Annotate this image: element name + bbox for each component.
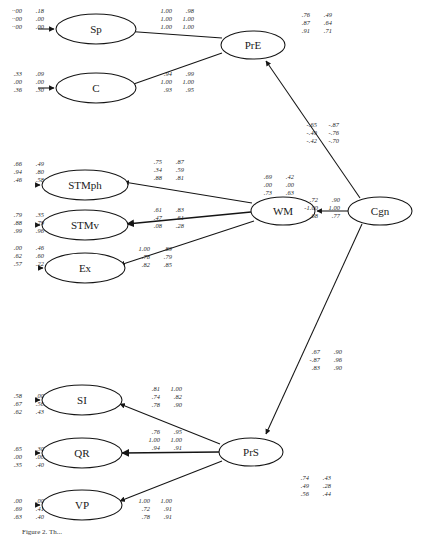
node-stmv[interactable]: STMv (42, 210, 128, 240)
node-pre[interactable]: PrE (221, 31, 285, 59)
node-si[interactable]: SI (42, 385, 122, 415)
node-vp[interactable]: VP (42, 490, 122, 520)
node-cgn[interactable]: Cgn (348, 197, 412, 225)
node-c[interactable]: C (56, 73, 136, 103)
coefficients-stmph-left: .66.49.94.80.46.58 (5, 160, 44, 184)
coefficients-wm-top: .69.42.00.00.73.63 (255, 173, 294, 197)
coefficients-vp-left: .00.00.69.41.63.40 (5, 497, 44, 521)
node-qr[interactable]: QR (42, 438, 122, 468)
node-qr-label: QR (74, 447, 90, 459)
node-c-label: C (92, 82, 99, 94)
coefficients-qr-loading: .76.951.001.00.94.91 (143, 428, 182, 452)
coefficients-ex-loading: 1.00.89.78.79.82.85 (133, 245, 172, 269)
coefficients-cgn-to-wm: .72.90-1.001.00.68.77 (301, 196, 340, 220)
coefficients-prs-right: .74.43.49.28.56.44 (292, 474, 331, 498)
node-wm-label: WM (273, 205, 293, 217)
arrow-prs-to-vp (120, 461, 222, 501)
coefficients-si-left: .58.00.67.56.62.43 (5, 392, 44, 416)
loading-arrows-prs (120, 404, 222, 501)
coefficients-cgn-to-prs: .67.90-.87.96.83.90 (303, 348, 342, 372)
node-prs-label: PrS (243, 446, 259, 458)
node-cgn-label: Cgn (371, 205, 390, 217)
coefficients-ex-left: .00.46.62.60.57.22 (5, 244, 44, 268)
structural-arrows-cgn (266, 61, 362, 434)
coefficients-stmv-loading: .61.83.47.61.08.28 (145, 206, 184, 230)
node-prs[interactable]: PrS (219, 438, 283, 466)
arrow-prs-to-qr (122, 452, 219, 453)
node-si-label: SI (77, 394, 87, 406)
node-stmph-label: STMph (68, 179, 102, 191)
coefficients-stmv-left: .79.35.88.79.99.96 (5, 211, 44, 235)
node-sp-label: Sp (90, 23, 102, 35)
node-sp[interactable]: Sp (56, 14, 136, 44)
arrow-pre-to-sp (124, 31, 222, 38)
node-ex-label: Ex (79, 262, 92, 274)
node-vp-label: VP (75, 499, 89, 511)
coefficients-c-left: .33.09.00.00.36.30 (5, 70, 44, 94)
coefficients-c-right: .94.991.001.00.93.95 (155, 70, 194, 94)
node-stmv-label: STMv (71, 219, 100, 231)
figure-caption: Figure 2. Th... (22, 528, 62, 536)
node-ex[interactable]: Ex (45, 253, 125, 283)
arrow-cgn-to-prs (266, 224, 362, 434)
coefficients-si-loading: .811.00.74.82.78.90 (143, 385, 182, 409)
coefficients-vp-loading: 1.001.00.72.91.78.91 (133, 497, 172, 521)
coefficients-cgn-to-pre: -.65-.87-.49-.76-.42-.70 (300, 121, 339, 145)
arrow-wm-to-stmph (124, 182, 252, 203)
coefficients-stmph-loading: .75.87.34.59.88.81 (145, 158, 184, 182)
node-stmph[interactable]: STMph (42, 170, 128, 200)
coefficients-sp-right: 1.00.981.001.001.001.00 (155, 7, 194, 31)
coefficients-qr-left: .65.30.00.00.35.40 (5, 445, 44, 469)
coefficients-sp-left: ··00.18··00.00··00.00 (5, 7, 44, 31)
coefficients-pre-right: .76.49.87.64.91.71 (293, 11, 332, 35)
path-diagram-canvas: Sp C STMph STMv Ex SI QR VP PrE WM PrS (0, 0, 425, 536)
node-pre-label: PrE (245, 39, 262, 51)
